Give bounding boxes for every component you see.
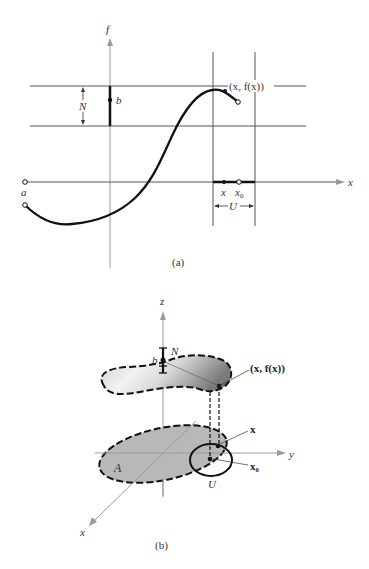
a-open-point <box>23 180 28 185</box>
b-label: b <box>116 94 122 106</box>
x-axis-arrow-icon <box>336 179 345 185</box>
fx-point <box>223 89 227 93</box>
n-label-b: N <box>170 345 179 357</box>
b-point-b <box>161 358 166 363</box>
x-label: x <box>220 186 226 198</box>
b-point <box>108 98 112 102</box>
n-arrow-down-icon <box>81 120 85 125</box>
n-arrow-up-icon <box>81 87 85 92</box>
x0-label: x0 <box>234 186 244 200</box>
x0-label-b: x₀ <box>250 460 260 472</box>
diagram-canvas: f x b N (x, f(x)) a <box>0 0 369 569</box>
x-axis-label: x <box>347 176 353 188</box>
u-arrow-right-icon <box>249 204 254 208</box>
f-axis-arrow-icon <box>107 38 113 46</box>
point-label: (x, f(x)) <box>229 80 264 93</box>
y-axis-label: y <box>288 448 294 460</box>
curve-end-open-point <box>236 100 241 105</box>
x-point-b <box>216 444 221 449</box>
b-label-b: b <box>152 354 158 366</box>
u-label-b: U <box>208 478 217 490</box>
x0-open-point <box>237 180 242 185</box>
region-a-label: A <box>113 461 122 475</box>
f-axis-label: f <box>106 23 111 35</box>
n-label: N <box>78 100 87 112</box>
x-axis-3d-label: x <box>79 526 85 538</box>
graph-surface <box>101 355 231 394</box>
u-label: U <box>229 200 238 212</box>
x-label-b: x <box>250 423 256 435</box>
x-axis-3d-arrow-icon <box>89 517 97 526</box>
a-label: a <box>21 186 27 198</box>
point-label-b: (x, f(x)) <box>250 362 285 375</box>
caption-a: (a) <box>172 256 185 269</box>
y-axis-arrow-icon <box>277 450 286 456</box>
x-point <box>222 180 226 184</box>
z-axis-label: z <box>159 295 165 307</box>
figure-b: z y x A U x x₀ (x, f(x)) <box>79 295 294 552</box>
u-arrow-left-icon <box>214 204 219 208</box>
figure-a: f x b N (x, f(x)) a <box>21 23 353 269</box>
caption-b: (b) <box>155 539 168 552</box>
z-axis-arrow-icon <box>160 311 166 320</box>
curve-start-open-point <box>23 203 28 208</box>
function-curve <box>25 90 238 225</box>
